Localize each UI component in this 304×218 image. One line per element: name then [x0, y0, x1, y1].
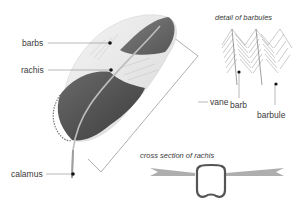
label-barb: barb	[230, 100, 247, 110]
label-barbule: barbule	[257, 110, 285, 120]
caption-cross-section: cross section of rachis	[140, 151, 214, 161]
label-rachis: rachis	[21, 65, 44, 75]
caption-barbules-detail: detail of barbules	[215, 13, 272, 23]
label-vane: vane	[210, 97, 228, 107]
barbules-detail	[222, 29, 292, 85]
feather-vane	[53, 15, 176, 142]
feather-illustration	[0, 0, 304, 218]
rachis-cross-section	[150, 165, 284, 197]
label-barbs: barbs	[22, 38, 43, 48]
label-calamus: calamus	[11, 169, 43, 179]
feather-diagram: barbs rachis vane calamus barb barbule d…	[0, 0, 304, 218]
